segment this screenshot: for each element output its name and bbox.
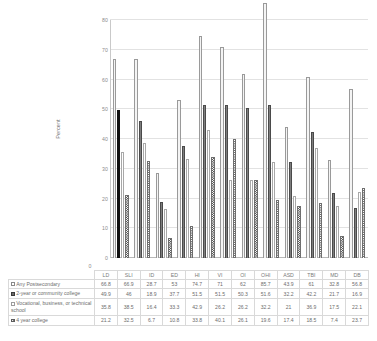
cell-OI-s1: 50.3 — [231, 289, 254, 299]
bar-ID-s1 — [160, 202, 163, 258]
hollow-square-icon — [11, 302, 15, 306]
cell-OHI-s2: 32.2 — [254, 299, 277, 316]
table-category-ED: ED — [163, 270, 186, 279]
plot-area — [110, 20, 368, 258]
table-corner-cell — [9, 270, 95, 279]
cell-HI-s1: 51.5 — [186, 289, 209, 299]
cell-MD-s1: 21.7 — [323, 289, 346, 299]
bar-VI-s3 — [233, 139, 236, 258]
bar-DB-s3 — [362, 188, 365, 259]
bar-TBI-s1 — [311, 132, 314, 258]
bar-group-SLI — [132, 20, 154, 258]
cell-DB-s0: 56.8 — [346, 279, 369, 289]
table-category-LD: LD — [95, 270, 118, 279]
cell-VI-s2: 26.2 — [209, 299, 232, 316]
y-axis-title: Percent — [55, 119, 61, 138]
cell-OI-s0: 62 — [231, 279, 254, 289]
series-label: Any Postsecondary — [16, 281, 60, 287]
legend-entry-2[interactable]: Vocational, business, or technical schoo… — [9, 299, 95, 316]
cell-HI-s3: 33.8 — [186, 316, 209, 326]
bar-OI-s2 — [250, 180, 253, 258]
bar-ID-s0 — [156, 173, 159, 258]
bar-OHI-s1 — [268, 105, 271, 259]
y-tick-60: 60 — [102, 77, 108, 83]
bar-OI-s0 — [242, 74, 245, 258]
bar-ASD-s1 — [289, 162, 292, 258]
cell-HI-s0: 74.7 — [186, 279, 209, 289]
bar-MD-s2 — [336, 206, 339, 258]
cell-ED-s2: 33.3 — [163, 299, 186, 316]
series-label: 2-year or community college — [16, 290, 80, 296]
cell-SLI-s0: 66.9 — [117, 279, 140, 289]
bar-OHI-s3 — [276, 200, 279, 258]
legend-entry-1[interactable]: 2-year or community college — [9, 289, 95, 299]
cell-ID-s1: 18.9 — [140, 289, 163, 299]
table-row: Any Postsecondary66.866.928.75374.771628… — [9, 279, 369, 289]
checkered-square-icon — [11, 319, 15, 323]
table-category-ID: ID — [140, 270, 163, 279]
bar-groups — [110, 20, 368, 258]
table-category-DB: DB — [346, 270, 369, 279]
bar-SLI-s2 — [143, 143, 146, 258]
table-header-row: 0 — [9, 262, 369, 270]
cell-SLI-s2: 38.5 — [117, 299, 140, 316]
bar-VI-s0 — [220, 47, 223, 258]
cell-LD-s0: 66.8 — [95, 279, 118, 289]
bar-group-DB — [347, 20, 369, 258]
series-label: Vocational, business, or technical schoo… — [11, 300, 92, 313]
bar-TBI-s0 — [306, 77, 309, 258]
bar-VI-s1 — [225, 105, 228, 258]
table-category-TBI: TBI — [300, 270, 323, 279]
bar-group-OI — [239, 20, 261, 258]
cell-OHI-s3: 19.6 — [254, 316, 277, 326]
table-category-OI: OI — [231, 270, 254, 279]
bar-group-HI — [196, 20, 218, 258]
bar-ID-s2 — [164, 209, 167, 258]
bar-TBI-s3 — [319, 203, 322, 258]
y-tick-40: 40 — [102, 136, 108, 142]
cell-ASD-s2: 21 — [277, 299, 300, 316]
y-tick-50: 50 — [102, 106, 108, 112]
bar-group-LD — [110, 20, 132, 258]
axis-origin-label: 0 — [9, 262, 95, 270]
chart-data-table: 0 LDSLIIDEDHIVIOIOHIASDTBIMDDB Any Posts… — [8, 262, 369, 326]
table-category-VI: VI — [209, 270, 232, 279]
bar-group-TBI — [304, 20, 326, 258]
cell-MD-s0: 32.8 — [323, 279, 346, 289]
cell-OI-s2: 26.2 — [231, 299, 254, 316]
bar-MD-s1 — [332, 193, 335, 258]
y-tick-20: 20 — [102, 196, 108, 202]
cell-ID-s3: 6.7 — [140, 316, 163, 326]
bar-HI-s2 — [207, 130, 210, 258]
bar-OHI-s0 — [263, 3, 266, 258]
cell-MD-s2: 17.5 — [323, 299, 346, 316]
bar-group-MD — [325, 20, 347, 258]
series-label: 4 year college — [16, 317, 48, 323]
cell-HI-s2: 42.9 — [186, 299, 209, 316]
bar-ASD-s2 — [293, 196, 296, 258]
cell-TBI-s3: 18.5 — [300, 316, 323, 326]
bar-ED-s2 — [186, 159, 189, 258]
cell-SLI-s3: 32.5 — [117, 316, 140, 326]
bar-HI-s1 — [203, 105, 206, 258]
bar-SLI-s1 — [139, 121, 142, 258]
bar-HI-s0 — [199, 36, 202, 258]
bar-SLI-s0 — [134, 59, 137, 258]
y-tick-80: 80 — [102, 17, 108, 23]
cell-LD-s2: 35.8 — [95, 299, 118, 316]
table-category-ASD: ASD — [277, 270, 300, 279]
table-category-HI: HI — [186, 270, 209, 279]
bar-DB-s1 — [354, 208, 357, 258]
legend-entry-0[interactable]: Any Postsecondary — [9, 279, 95, 289]
legend-entry-3[interactable]: 4 year college — [9, 316, 95, 326]
cell-OHI-s0: 85.7 — [254, 279, 277, 289]
bar-group-VI — [218, 20, 240, 258]
filled-square-icon — [11, 292, 15, 296]
bar-DB-s2 — [358, 192, 361, 258]
bar-ID-s3 — [168, 238, 171, 258]
cell-TBI-s0: 61 — [300, 279, 323, 289]
cell-DB-s1: 16.9 — [346, 289, 369, 299]
bar-DB-s0 — [349, 89, 352, 258]
bar-group-ASD — [282, 20, 304, 258]
y-tick-0: 0 — [105, 255, 108, 261]
